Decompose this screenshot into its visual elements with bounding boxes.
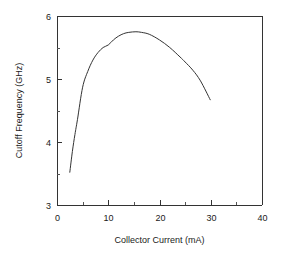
y-tick-label: 6 — [46, 12, 51, 22]
x-tick-label: 20 — [155, 213, 165, 223]
x-tick-label: 0 — [55, 213, 60, 223]
chart-figure: 0102030403456 Collector Current (mA) Cut… — [0, 0, 288, 260]
x-axis-title: Collector Current (mA) — [114, 235, 204, 245]
x-tick-label: 10 — [103, 213, 113, 223]
chart-background — [0, 0, 288, 260]
x-tick-label: 40 — [257, 213, 267, 223]
x-tick-label: 30 — [206, 213, 216, 223]
y-tick-label: 3 — [46, 201, 51, 211]
line-chart: 0102030403456 Collector Current (mA) Cut… — [0, 0, 288, 260]
y-axis-title: Cutoff Frequency (GHz) — [14, 63, 24, 158]
y-tick-label: 4 — [46, 138, 51, 148]
y-tick-label: 5 — [46, 75, 51, 85]
